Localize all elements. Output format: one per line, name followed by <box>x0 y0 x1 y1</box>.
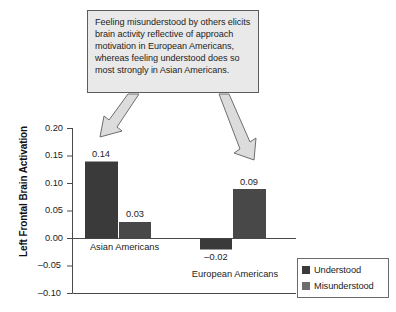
value-label-asian-misunderstood: 0.03 <box>118 209 152 219</box>
legend-swatch-understood <box>302 266 310 274</box>
y-tick-label-2: 0.10 <box>29 178 63 188</box>
bar-european-understood <box>200 239 232 250</box>
bar-european-misunderstood <box>233 189 266 239</box>
y-tick-label-0: 0.20 <box>29 123 63 133</box>
value-label-asian-understood: 0.14 <box>84 149 118 159</box>
y-tick-label-5: –0.05 <box>27 260 61 270</box>
y-tick-label-1: 0.15 <box>29 150 63 160</box>
category-label-european-americans: European Americans <box>180 269 290 279</box>
y-tick-label-6: –0.10 <box>27 288 61 298</box>
y-axis-ticks <box>67 129 73 294</box>
value-label-european-understood: –0.02 <box>199 252 233 262</box>
value-label-european-misunderstood: 0.09 <box>232 177 266 187</box>
y-axis-title: Left Frontal Brain Activation <box>18 107 29 277</box>
legend-item-understood[interactable]: Understood <box>302 262 384 278</box>
legend-swatch-misunderstood <box>302 282 310 290</box>
legend: Understood Misunderstood <box>297 258 389 298</box>
chart-figure: Feeling misunderstood by others elicits … <box>0 0 396 312</box>
category-label-asian-americans: Asian Americans <box>73 242 176 252</box>
callout-arrow-right <box>219 94 256 160</box>
legend-label-understood: Understood <box>314 265 361 275</box>
legend-item-misunderstood[interactable]: Misunderstood <box>302 278 384 294</box>
callout-arrow-left <box>100 94 139 137</box>
y-tick-label-3: 0.05 <box>29 205 63 215</box>
y-tick-label-4: 0.00 <box>29 233 63 243</box>
bar-asian-misunderstood <box>119 222 151 239</box>
bar-asian-understood <box>85 162 118 239</box>
legend-label-misunderstood: Misunderstood <box>314 281 374 291</box>
